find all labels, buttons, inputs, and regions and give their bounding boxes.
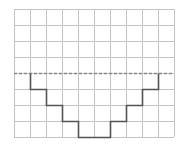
grid-diagram [0,0,182,146]
